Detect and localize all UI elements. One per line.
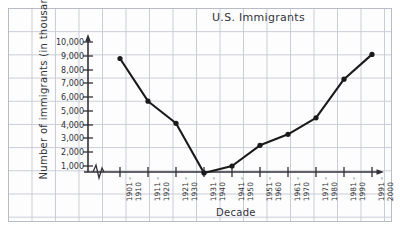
x-tick-label: 1961 -1970 — [293, 177, 311, 201]
x-tick-label: 1981 -1990 — [349, 177, 367, 201]
x-tick-label: 1931 -1940 — [209, 177, 227, 201]
x-axis-tick-labels: 1901 -19101911 -19201921 -19301931 -1940… — [0, 0, 400, 243]
x-tick-label: 1911 -1920 — [153, 177, 171, 201]
x-tick-label: 1951 -1960 — [265, 177, 283, 201]
x-tick-label: 1921 -1930 — [181, 177, 199, 201]
immigration-line-chart: U.S. Immigrants Number of immigrants (in… — [0, 0, 400, 243]
x-tick-label: 1971 -1980 — [321, 177, 339, 201]
x-tick-label: 1901 -1910 — [125, 177, 143, 201]
x-tick-label: 1941 -1950 — [237, 177, 255, 201]
x-tick-label: 1991 -2000 — [377, 177, 395, 201]
